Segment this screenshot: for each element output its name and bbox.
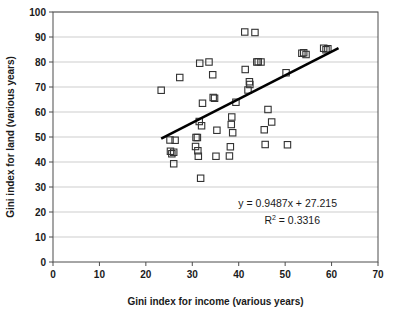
trendline-equation-label: y = 0.9487x + 27.215 xyxy=(238,197,337,209)
x-axis-title: Gini index for income (various years) xyxy=(127,296,303,307)
y-axis-tick-label: 20 xyxy=(35,207,47,218)
x-axis: 010203040506070 xyxy=(50,262,384,280)
x-axis-tick-label: 0 xyxy=(50,269,56,280)
scatter-chart: 0102030405060708090100010203040506070Gin… xyxy=(0,0,393,322)
y-axis-tick-label: 0 xyxy=(40,257,46,268)
y-axis: 0102030405060708090100 xyxy=(29,7,53,268)
y-axis-tick-label: 100 xyxy=(29,7,46,18)
x-axis-tick-label: 50 xyxy=(280,269,292,280)
y-axis-tick-label: 60 xyxy=(35,107,47,118)
x-axis-tick-label: 20 xyxy=(140,269,152,280)
chart-canvas: 0102030405060708090100010203040506070Gin… xyxy=(0,0,393,322)
y-axis-tick-label: 50 xyxy=(35,132,47,143)
x-axis-tick-label: 10 xyxy=(94,269,106,280)
x-axis-tick-label: 40 xyxy=(233,269,245,280)
x-axis-tick-label: 30 xyxy=(187,269,199,280)
x-axis-tick-label: 60 xyxy=(326,269,338,280)
y-axis-tick-label: 90 xyxy=(35,32,47,43)
y-axis-tick-label: 80 xyxy=(35,57,47,68)
y-axis-tick-label: 40 xyxy=(35,157,47,168)
y-axis-tick-label: 70 xyxy=(35,82,47,93)
y-axis-tick-label: 30 xyxy=(35,182,47,193)
x-axis-tick-label: 70 xyxy=(372,269,384,280)
r-squared-value: = 0.3316 xyxy=(276,214,320,226)
y-axis-title: Gini index for land (various years) xyxy=(5,56,16,218)
y-axis-tick-label: 10 xyxy=(35,232,47,243)
